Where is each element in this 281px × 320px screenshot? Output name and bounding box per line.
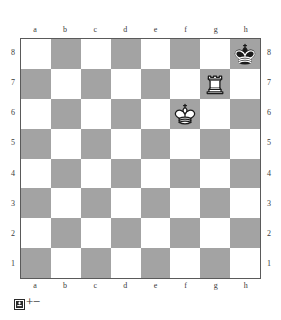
square-a6[interactable] [21, 99, 51, 129]
square-d3[interactable] [111, 188, 141, 218]
square-a7[interactable] [21, 69, 51, 99]
file-label-d-bottom: d [110, 281, 140, 292]
rank-label-4-right: 4 [264, 159, 274, 189]
square-g2[interactable] [200, 218, 230, 248]
square-c7[interactable] [81, 69, 111, 99]
square-d6[interactable] [111, 99, 141, 129]
file-label-f-top: f [171, 25, 201, 36]
square-e1[interactable] [141, 248, 171, 278]
square-f2[interactable] [170, 218, 200, 248]
square-g6[interactable] [200, 99, 230, 129]
rank-labels-left: 8 7 6 5 4 3 2 1 [8, 38, 18, 279]
square-h1[interactable] [230, 248, 260, 278]
square-e4[interactable] [141, 159, 171, 189]
square-h6[interactable] [230, 99, 260, 129]
square-c1[interactable] [81, 248, 111, 278]
square-h3[interactable] [230, 188, 260, 218]
file-label-a-bottom: a [20, 281, 50, 292]
square-h7[interactable] [230, 69, 260, 99]
square-b6[interactable] [51, 99, 81, 129]
square-b5[interactable] [51, 129, 81, 159]
square-b1[interactable] [51, 248, 81, 278]
square-c5[interactable] [81, 129, 111, 159]
rank-label-6-left: 6 [8, 98, 18, 128]
white-rook-icon [200, 69, 230, 99]
square-h2[interactable] [230, 218, 260, 248]
file-label-e-top: e [141, 25, 171, 36]
file-labels-bottom: a b c d e f g h [20, 281, 261, 292]
square-g5[interactable] [200, 129, 230, 159]
rank-label-2-right: 2 [264, 219, 274, 249]
square-b2[interactable] [51, 218, 81, 248]
square-f4[interactable] [170, 159, 200, 189]
file-label-h-bottom: h [231, 281, 261, 292]
square-e2[interactable] [141, 218, 171, 248]
square-d5[interactable] [111, 129, 141, 159]
square-g1[interactable] [200, 248, 230, 278]
square-a2[interactable] [21, 218, 51, 248]
square-b4[interactable] [51, 159, 81, 189]
file-labels-top-row: a b c d e f g h [20, 25, 261, 36]
rank-label-8-right: 8 [264, 38, 274, 68]
rank-label-4-left: 4 [8, 159, 18, 189]
square-d2[interactable] [111, 218, 141, 248]
square-g3[interactable] [200, 188, 230, 218]
file-label-a-top: a [20, 25, 50, 36]
square-b8[interactable] [51, 39, 81, 69]
square-e3[interactable] [141, 188, 171, 218]
square-c2[interactable] [81, 218, 111, 248]
square-e6[interactable] [141, 99, 171, 129]
file-labels-bottom-row: a b c d e f g h [20, 281, 261, 292]
chess-board-wrapper [20, 38, 261, 279]
square-d7[interactable] [111, 69, 141, 99]
rank-label-7-right: 7 [264, 68, 274, 98]
square-b7[interactable] [51, 69, 81, 99]
square-f6[interactable] [170, 99, 200, 129]
square-c3[interactable] [81, 188, 111, 218]
rank-label-1-left: 1 [8, 249, 18, 279]
square-h8[interactable] [230, 39, 260, 69]
rank-label-3-right: 3 [264, 189, 274, 219]
square-c4[interactable] [81, 159, 111, 189]
square-g4[interactable] [200, 159, 230, 189]
file-label-h-top: h [231, 25, 261, 36]
chess-board[interactable] [20, 38, 261, 279]
square-f5[interactable] [170, 129, 200, 159]
square-e8[interactable] [141, 39, 171, 69]
file-label-f-bottom: f [171, 281, 201, 292]
square-a8[interactable] [21, 39, 51, 69]
square-a1[interactable] [21, 248, 51, 278]
file-label-c-top: c [80, 25, 110, 36]
square-d8[interactable] [111, 39, 141, 69]
white-king-icon [170, 99, 200, 129]
square-e7[interactable] [141, 69, 171, 99]
rank-label-5-left: 5 [8, 128, 18, 158]
square-f7[interactable] [170, 69, 200, 99]
evaluation-footer: +− [14, 294, 40, 308]
square-h4[interactable] [230, 159, 260, 189]
file-label-d-top: d [110, 25, 140, 36]
square-a3[interactable] [21, 188, 51, 218]
rank-label-1-right: 1 [264, 249, 274, 279]
square-d4[interactable] [111, 159, 141, 189]
square-f8[interactable] [170, 39, 200, 69]
square-h5[interactable] [230, 129, 260, 159]
square-c8[interactable] [81, 39, 111, 69]
rank-labels-right-col: 8 7 6 5 4 3 2 1 [264, 38, 274, 279]
square-d1[interactable] [111, 248, 141, 278]
rank-label-2-left: 2 [8, 219, 18, 249]
square-g8[interactable] [200, 39, 230, 69]
rank-label-5-right: 5 [264, 128, 274, 158]
square-g7[interactable] [200, 69, 230, 99]
square-f3[interactable] [170, 188, 200, 218]
file-label-b-bottom: b [50, 281, 80, 292]
square-b3[interactable] [51, 188, 81, 218]
rank-label-6-right: 6 [264, 98, 274, 128]
rank-labels-right: 8 7 6 5 4 3 2 1 [264, 38, 274, 279]
square-c6[interactable] [81, 99, 111, 129]
file-labels-top: a b c d e f g h [20, 25, 261, 36]
square-a5[interactable] [21, 129, 51, 159]
square-e5[interactable] [141, 129, 171, 159]
square-f1[interactable] [170, 248, 200, 278]
square-a4[interactable] [21, 159, 51, 189]
